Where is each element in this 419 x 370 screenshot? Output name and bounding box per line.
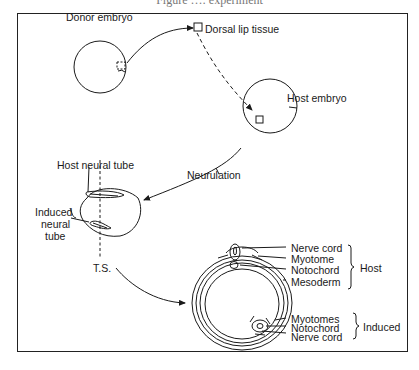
host-embryo-label: Host embryo	[287, 93, 347, 104]
donor-embryo-label: Donor embryo	[66, 12, 133, 23]
neurulation-label: Neurulation	[187, 170, 241, 181]
host-mesoderm-label: Mesoderm	[291, 277, 341, 288]
host-graft-square	[256, 116, 263, 123]
induced-nerve-cord-label: Nerve cord	[291, 332, 342, 343]
induced-label-line1: Induced	[35, 207, 72, 218]
transfer-arrow	[127, 28, 193, 63]
ts-label: T.S.	[93, 263, 111, 274]
host-group-label: Host	[360, 263, 382, 274]
donor-dorsal-lip-square	[117, 62, 125, 69]
embryo-diagram	[0, 0, 419, 370]
dorsal-lip-tissue-square	[194, 23, 202, 31]
host-nerve-cord-label: Nerve cord	[291, 243, 342, 254]
induced-brace	[353, 313, 359, 339]
induced-label-line2: neural	[41, 219, 70, 230]
induced-group-label: Induced	[363, 322, 400, 333]
ts-arrow	[116, 268, 185, 303]
cross-section	[192, 244, 292, 350]
host-brace	[348, 245, 354, 289]
induced-label-line3: tube	[45, 231, 65, 242]
dorsal-lip-tissue-label: Dorsal lip tissue	[205, 24, 279, 35]
host-notochord-label: Notochord	[291, 265, 339, 276]
host-embryo-circle	[243, 79, 297, 133]
host-neural-tube-label: Host neural tube	[57, 160, 134, 171]
donor-embryo-circle	[74, 41, 126, 93]
host-myotome-label: Myotome	[291, 254, 334, 265]
